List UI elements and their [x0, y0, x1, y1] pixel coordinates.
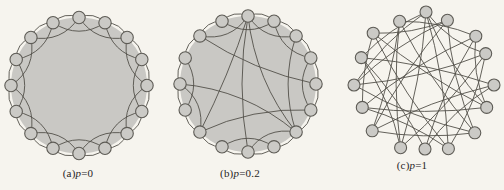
panel-b-graph — [174, 10, 322, 158]
network-node — [47, 142, 59, 154]
network-node — [179, 52, 191, 64]
panel-c-caption: (c)p=1 — [397, 159, 428, 171]
network-edge — [373, 20, 447, 33]
network-node — [395, 142, 407, 154]
network-edge — [400, 21, 475, 133]
network-node — [366, 125, 378, 137]
network-node — [194, 126, 206, 138]
network-node — [136, 105, 148, 117]
network-node — [242, 146, 254, 158]
network-node — [470, 30, 482, 42]
network-node — [216, 15, 228, 27]
panel-b-caption: (b)p=0.2 — [220, 167, 260, 179]
panel-a-caption-prefix: (a) — [63, 167, 76, 179]
network-node — [121, 127, 133, 139]
network-node — [73, 11, 85, 23]
network-node — [47, 17, 59, 29]
network-node — [394, 15, 406, 27]
network-node — [488, 79, 500, 91]
network-node — [310, 78, 322, 90]
panel-a-graph — [5, 11, 153, 159]
network-node — [73, 147, 85, 159]
network-node — [469, 127, 481, 139]
network-node — [419, 143, 431, 155]
network-node — [355, 52, 367, 64]
network-node — [305, 52, 317, 64]
network-node — [420, 6, 432, 18]
panel-c-caption-value: =1 — [415, 159, 427, 171]
network-node — [10, 53, 22, 65]
network-panels-canvas — [0, 0, 504, 190]
network-node — [480, 48, 492, 60]
network-node — [356, 101, 368, 113]
panel-a-caption: (a)p=0 — [63, 167, 94, 179]
network-node — [99, 17, 111, 29]
network-node — [141, 79, 153, 91]
network-node — [25, 31, 37, 43]
network-edge — [425, 36, 476, 149]
network-node — [481, 101, 493, 113]
network-node — [268, 141, 280, 153]
network-edge — [373, 33, 448, 149]
network-node — [121, 31, 133, 43]
small-world-figure: (a)p=0 (b)p=0.2 (c)p=1 — [0, 0, 504, 190]
network-node — [441, 14, 453, 26]
network-node — [442, 143, 454, 155]
network-node — [136, 53, 148, 65]
network-node — [10, 105, 22, 117]
network-node — [268, 15, 280, 27]
network-node — [290, 30, 302, 42]
network-node — [367, 27, 379, 39]
network-node — [99, 142, 111, 154]
panel-a-caption-value: =0 — [81, 167, 93, 179]
network-node — [194, 30, 206, 42]
panel-c-caption-prefix: (c) — [397, 159, 410, 171]
network-node — [5, 79, 17, 91]
network-edge — [354, 12, 426, 85]
network-node — [242, 10, 254, 22]
panel-b-caption-value: =0.2 — [239, 167, 260, 179]
network-node — [305, 104, 317, 116]
network-node — [348, 79, 360, 91]
network-node — [216, 141, 228, 153]
network-node — [174, 78, 186, 90]
panel-b-caption-prefix: (b) — [220, 167, 233, 179]
network-node — [25, 127, 37, 139]
network-node — [179, 104, 191, 116]
network-node — [290, 126, 302, 138]
panel-c-graph — [348, 6, 500, 155]
